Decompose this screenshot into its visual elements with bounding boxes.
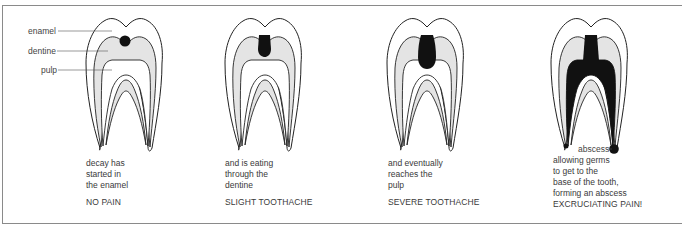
label-abscess: abscess xyxy=(578,144,609,154)
decay-cavity xyxy=(258,35,271,57)
stage-4-pain-level: EXCRUCIATING PAIN! xyxy=(553,199,642,209)
stage-2-pain-level: SLIGHT TOOTHACHE xyxy=(225,197,313,207)
tooth-stage-1 xyxy=(86,19,162,151)
stage-2-caption: and is eating through the dentine xyxy=(225,158,273,191)
root-tip-left xyxy=(564,144,569,149)
decay-spot xyxy=(120,36,131,47)
tooth-stage-2 xyxy=(225,19,301,151)
decay-cavity xyxy=(418,35,436,69)
label-enamel: enamel xyxy=(28,26,56,36)
stage-1-caption: decay has started in the enamel xyxy=(86,158,128,191)
label-dentine: dentine xyxy=(28,46,56,56)
stage-3-pain-level: SEVERE TOOTHACHE xyxy=(388,197,480,207)
tooth-stage-3 xyxy=(387,19,463,151)
stage-3-caption: and eventually reaches the pulp xyxy=(388,158,443,191)
decay-channel xyxy=(583,35,599,61)
tooth-stage-4 xyxy=(551,19,627,154)
label-pulp: pulp xyxy=(41,65,57,75)
stage-4-caption: allowing germs to get to the base of the… xyxy=(553,155,627,199)
stage-1-pain-level: NO PAIN xyxy=(86,197,121,207)
